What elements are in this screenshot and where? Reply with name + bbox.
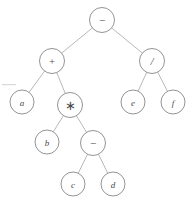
node-label-n1: + [49, 56, 55, 67]
tree-edge-n0-n1 [62, 28, 93, 53]
expression-tree-figure: −+/a∗efb−cd [0, 0, 196, 209]
node-label-n4: ∗ [65, 98, 76, 113]
node-label-n0: − [99, 14, 105, 26]
tree-edge-n2-n5 [138, 72, 147, 91]
tree-node-n5[interactable]: e [121, 90, 145, 114]
tree-edge-n4-n7 [53, 116, 63, 132]
tree-node-n0[interactable]: − [90, 8, 115, 33]
node-label-n8: − [90, 137, 96, 149]
node-label-n3: a [20, 98, 25, 108]
tree-node-n2[interactable]: / [140, 49, 165, 74]
tree-node-n6[interactable]: f [161, 90, 185, 114]
node-label-n9: c [71, 180, 75, 190]
tree-node-n7[interactable]: b [35, 130, 59, 154]
tree-edge-n8-n10 [98, 154, 107, 173]
node-label-n7: b [45, 138, 50, 148]
tree-edge-n8-n9 [78, 154, 87, 173]
tree-edge-n1-n3 [29, 71, 45, 92]
nodes-layer: −+/a∗efb−cd [10, 8, 185, 197]
expression-tree-canvas: −+/a∗efb−cd [0, 0, 196, 209]
page-edge-artifact [2, 84, 16, 85]
node-label-n5: e [131, 98, 135, 108]
tree-edge-n2-n6 [158, 72, 168, 91]
tree-node-n3[interactable]: a [10, 90, 34, 114]
tree-node-n8[interactable]: − [81, 131, 106, 156]
tree-node-n4[interactable]: ∗ [58, 93, 83, 118]
node-label-n10: d [111, 180, 116, 190]
tree-node-n10[interactable]: d [101, 172, 125, 196]
tree-node-n9[interactable]: c [61, 172, 85, 196]
tree-node-n1[interactable]: + [40, 49, 65, 74]
tree-edge-n0-n2 [112, 28, 143, 53]
tree-edge-n1-n4 [57, 73, 66, 94]
tree-edge-n4-n8 [76, 116, 86, 133]
